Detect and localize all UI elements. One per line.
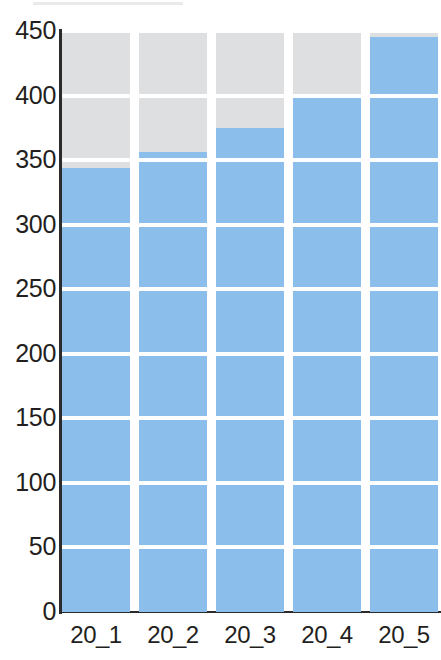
y-axis-tick-label: 200 — [0, 341, 56, 366]
y-axis-tick-label: 100 — [0, 470, 56, 495]
y-axis-tick-label: 450 — [0, 18, 56, 43]
plot-area — [62, 31, 441, 612]
bar-column[interactable] — [139, 31, 207, 612]
y-axis-tick-label: 350 — [0, 147, 56, 172]
bar-value-fill — [370, 37, 438, 612]
y-axis-tick-label: 400 — [0, 83, 56, 108]
bar-column[interactable] — [62, 31, 130, 612]
y-axis-tick-label: 250 — [0, 276, 56, 301]
bar-series — [62, 31, 441, 612]
y-axis-tick-label: 150 — [0, 405, 56, 430]
x-axis-tick-label: 20_1 — [62, 620, 130, 650]
x-axis-tick-label: 20_2 — [139, 620, 207, 650]
y-axis-tick-label: 300 — [0, 212, 56, 237]
x-axis-tick-labels: 20_120_220_320_420_5 — [62, 620, 441, 650]
bar-value-fill — [62, 168, 130, 612]
y-axis-tick-label: 0 — [0, 599, 56, 624]
bar-column[interactable] — [216, 31, 284, 612]
x-axis-tick-label: 20_4 — [293, 620, 361, 650]
bar-value-fill — [216, 128, 284, 612]
x-axis-tick-label: 20_3 — [216, 620, 284, 650]
y-axis-tick-labels: 050100150200250300350400450 — [0, 0, 56, 660]
bar-column[interactable] — [370, 31, 438, 612]
x-axis-tick-label: 20_5 — [370, 620, 438, 650]
bar-value-fill — [139, 152, 207, 612]
bar-column[interactable] — [293, 31, 361, 612]
bar-chart: 050100150200250300350400450 20_120_220_3… — [0, 0, 441, 660]
bar-value-fill — [293, 97, 361, 612]
y-axis-tick-label: 50 — [0, 534, 56, 559]
